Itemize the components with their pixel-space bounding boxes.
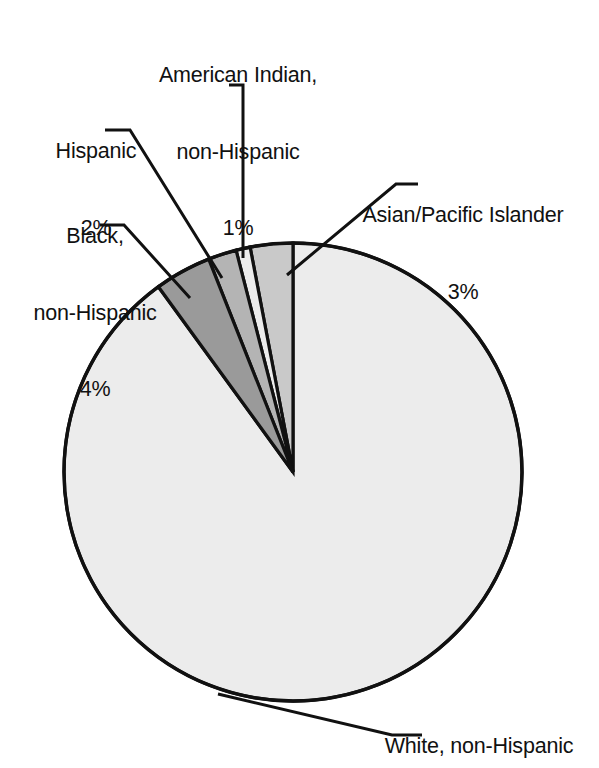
slice-label-american-indian-line1: American Indian, <box>112 63 364 89</box>
slice-label-asian-value: 3% <box>334 280 592 306</box>
slice-label-black-value: 4% <box>6 377 184 403</box>
slice-label-black-line2: non-Hispanic <box>6 301 184 327</box>
slice-label-white: White, non-Hispanic 90% <box>362 683 596 768</box>
slice-label-black: Black, non-Hispanic 4% <box>6 173 184 454</box>
slice-label-asian: Asian/Pacific Islander 3% <box>334 152 592 356</box>
slice-label-white-line1: White, non-Hispanic <box>362 734 596 760</box>
slice-label-hispanic-line1: Hispanic <box>18 139 174 165</box>
slice-label-asian-line1: Asian/Pacific Islander <box>334 203 592 229</box>
pie-chart: American Indian, non-Hispanic 1% Hispani… <box>0 0 599 768</box>
slice-label-black-line1: Black, <box>6 224 184 250</box>
